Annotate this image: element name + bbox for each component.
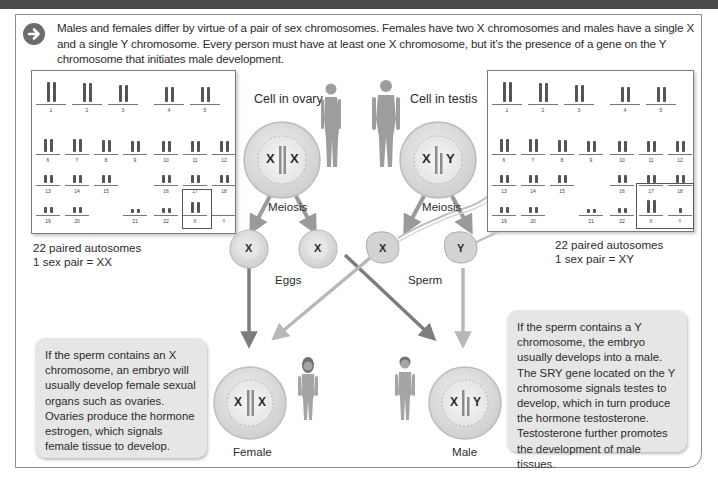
male-info-box: If the sperm contains a Y chromosome, th… [507,310,687,452]
testis-cell-label: Cell in testis [410,92,477,106]
chromosome [137,141,140,152]
ovary-cell [244,122,320,198]
chromosome [581,85,584,102]
karyotype-number: 10 [610,157,634,163]
chromosome [529,207,532,213]
karyotype-baseline [154,154,178,155]
chromosome [564,175,567,183]
chromosome [564,140,567,152]
chromosome [168,208,171,213]
karyotype-number: 3 [564,107,594,113]
chromosome [168,175,171,183]
chromosome [131,209,134,213]
karyotype-baseline [579,154,603,155]
karyotype-number: 9 [579,157,603,163]
chromosome [657,87,660,102]
chromosome [171,87,174,102]
chromosome [197,175,200,183]
chromosome [545,83,548,102]
female-chr-2: X [258,395,266,409]
chromosome [587,209,590,213]
karyotype-number: 22 [610,218,634,224]
chromosome [535,175,538,183]
testis-cell [400,122,476,198]
karyotype-baseline [183,154,207,155]
chromosome [44,175,47,183]
karyotype-baseline [646,104,676,105]
karyotype-baseline [212,215,236,216]
chromosome [593,209,596,213]
chromosome [44,139,47,152]
male-caption-line2: 1 sex pair = XY [555,252,663,266]
chromosome [162,208,165,213]
chromosome [653,141,656,152]
karyotype-baseline [521,154,545,155]
karyotype-baseline [564,104,594,105]
karyotype-number: 20 [521,218,545,224]
chromosome [624,175,627,183]
chromosome [618,208,621,213]
female-karyotype: 12345678910111213141516171819202122XY [31,70,236,234]
karyotype-baseline [36,215,60,216]
chromosome [125,85,128,102]
chromosome [624,208,627,213]
sperm-label: Sperm [408,273,442,286]
karyotype-number: 5 [646,107,676,113]
female-caption-line2: 1 sex pair = XX [33,255,141,269]
karyotype-number: Y [212,218,236,224]
karyotype-baseline [668,154,692,155]
karyotype-number: 11 [639,157,663,163]
male-karyotype: 12345678910111213141516171819202122XY [487,70,694,232]
chromosome [73,175,76,183]
male-caption-line1: 22 paired autosomes [555,238,663,252]
chromosome [50,139,53,152]
karyotype-number: 3 [108,107,138,113]
karyotype-baseline [154,104,184,105]
chromosome [535,207,538,213]
male-label: Male [452,445,477,458]
karyotype-number: 8 [94,157,118,163]
male-chr-1: X [450,395,458,409]
chromosome [137,209,140,213]
chromosome [44,207,47,213]
chromosome [53,82,56,102]
chromosome [79,207,82,213]
karyotype-number: 13 [36,188,60,194]
boy-figure [395,357,415,421]
chromosome [587,141,590,152]
karyotype-number: 18 [212,188,236,194]
chromosome [50,207,53,213]
karyotype-baseline [492,104,522,105]
chromosome [653,175,656,183]
karyotype-number: 6 [492,157,516,163]
karyotype-baseline [610,215,634,216]
chromosome [647,141,650,152]
karyotype-baseline [521,185,545,186]
chromosome [220,175,223,183]
chromosome [647,175,650,183]
karyotype-baseline [65,185,89,186]
karyotype-baseline [492,185,516,186]
chromosome [102,140,105,152]
karyotype-number: 13 [492,188,516,194]
karyotype-number: 1 [36,107,66,113]
chromosome [73,139,76,152]
karyotype-number: 19 [492,218,516,224]
female-chr-1: X [234,395,242,409]
sperm-1-chr: X [379,242,386,254]
chromosome [79,139,82,152]
karyotype-number: 11 [183,157,207,163]
sex-chromosome-box [182,189,212,229]
testis-chr-2: Y [446,151,455,166]
chromosome [535,139,538,152]
chromosome [618,175,621,183]
chromosome [529,175,532,183]
chromosome [621,87,624,102]
chromosome [102,175,105,183]
karyotype-number: 14 [521,188,545,194]
karyotype-number: 15 [94,188,118,194]
chromosome [50,175,53,183]
karyotype-number: 5 [190,107,220,113]
ovary-cell-label: Cell in ovary [254,92,323,106]
karyotype-baseline [528,104,558,105]
